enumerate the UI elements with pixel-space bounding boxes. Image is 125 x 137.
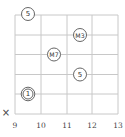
marker-string4-5: 5 bbox=[74, 68, 87, 81]
marker-string1-5: 5 bbox=[22, 8, 35, 21]
marker-string2-m3: M3 bbox=[74, 29, 87, 42]
fret-label-9: 9 bbox=[13, 121, 18, 130]
marker-label: M7 bbox=[49, 51, 58, 58]
marker-label: 1 bbox=[26, 90, 30, 98]
chord-diagram: 5 M3 M7 5 1 × 9 10 11 12 13 bbox=[0, 0, 125, 137]
marker-string3-m7: M7 bbox=[48, 48, 61, 61]
marker-label: M3 bbox=[75, 32, 84, 39]
marker-label: 5 bbox=[26, 10, 30, 18]
fret-labels: 9 10 11 12 13 bbox=[13, 121, 123, 130]
fret-label-12: 12 bbox=[87, 121, 97, 130]
fret-label-13: 13 bbox=[113, 121, 123, 130]
muted-string-icon: × bbox=[2, 107, 10, 118]
marker-label: 5 bbox=[78, 71, 82, 79]
fret-label-10: 10 bbox=[36, 121, 46, 130]
fret-label-11: 11 bbox=[62, 121, 72, 130]
marker-string5-root: 1 bbox=[21, 87, 35, 101]
